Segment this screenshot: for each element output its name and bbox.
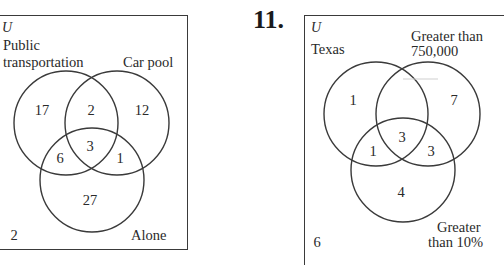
set-label-750000-line1: Greater than (411, 29, 483, 44)
region-public-alone: 6 (56, 150, 63, 167)
region-alone-only: 27 (83, 192, 98, 209)
region-750000-only: 7 (450, 92, 457, 109)
set-label-public-line2: transportation (3, 55, 84, 70)
region-outside-left: 2 (10, 227, 17, 244)
set-label-texas: Texas (311, 42, 345, 57)
region-carpool-only: 12 (135, 102, 150, 119)
region-texas-10pct: 1 (369, 143, 376, 160)
universe-label-left: U (2, 20, 12, 35)
set-label-alone: Alone (131, 228, 166, 243)
set-label-750000-line2: 750,000 (411, 44, 458, 59)
region-public-only: 17 (35, 102, 50, 119)
region-texas-only: 1 (349, 92, 356, 109)
region-public-carpool: 2 (87, 102, 94, 119)
circle-public-transportation (14, 71, 118, 175)
region-750000-10pct: 3 (427, 143, 434, 160)
region-carpool-alone: 1 (116, 150, 123, 167)
set-label-10pct-line2: than 10% (428, 235, 483, 250)
region-10pct-only: 4 (397, 184, 404, 201)
region-all-three: 3 (86, 138, 93, 155)
set-label-public-line1: Public (3, 38, 40, 53)
region-outside-right: 6 (313, 234, 320, 251)
universe-label-right: U (311, 20, 321, 35)
exercise-number: 11. (253, 6, 284, 34)
region-all-three-right: 3 (398, 129, 405, 146)
set-label-car-pool: Car pool (123, 55, 173, 70)
set-label-10pct-line1: Greater (437, 220, 480, 235)
